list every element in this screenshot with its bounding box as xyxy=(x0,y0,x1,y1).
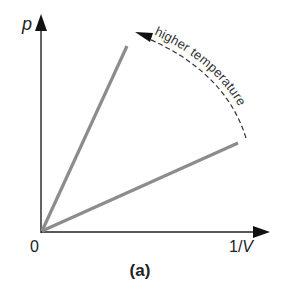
origin-label: 0 xyxy=(30,238,39,255)
isotherm-line-steep xyxy=(42,46,127,231)
y-axis-arrow-icon xyxy=(35,14,47,31)
x-axis xyxy=(41,226,270,238)
x-axis-label: 1/V xyxy=(229,238,254,255)
annotation-higher-temperature: higher temperature xyxy=(153,24,250,109)
y-axis-label: p xyxy=(21,14,32,34)
temperature-arrow-head-icon xyxy=(135,32,153,42)
x-axis-arrow-icon xyxy=(253,226,270,238)
isotherm-line-shallow xyxy=(42,143,238,231)
pv-diagram: higher temperature p 0 1/V (a) xyxy=(0,0,289,293)
figure-caption: (a) xyxy=(130,261,151,280)
y-axis xyxy=(35,14,47,233)
